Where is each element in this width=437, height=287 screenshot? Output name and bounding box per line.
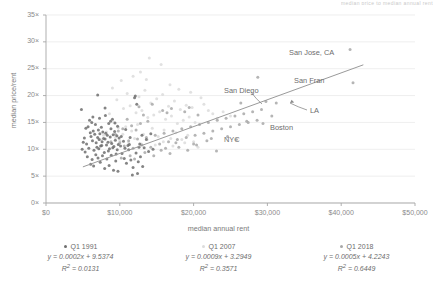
y-tick-label: 20× <box>9 91 39 98</box>
r-squared-number: 0.6449 <box>354 265 375 272</box>
x-tick-label: $30,000 <box>237 209 297 216</box>
legend-equation-0: y = 0.0002x + 9.5374R2 = 0.0131 <box>12 252 150 273</box>
legend-equation-2: y = 0.0005x + 4.2243R2 = 0.6449 <box>288 252 426 273</box>
annotation-nyc: NYC <box>224 135 240 144</box>
x-axis-title: median annual rent <box>0 224 437 233</box>
y-tick-label: 15× <box>9 118 39 125</box>
y-tick-label: 35× <box>9 11 39 18</box>
x-tick-label: $10,000 <box>90 209 150 216</box>
r-squared-value: R2 = 0.6449 <box>288 262 426 274</box>
y-tick-label: 25× <box>9 64 39 71</box>
y-tick-label: 5× <box>9 172 39 179</box>
annotation-san-diego: San Diego <box>224 86 259 95</box>
regression-equation: y = 0.0005x + 4.2243 <box>288 252 426 262</box>
r-squared-value: R2 = 0.3571 <box>150 262 288 274</box>
chart-legend: Q1 1991Q1 2007Q1 2018 y = 0.0002x + 9.53… <box>0 241 437 273</box>
r-squared-number: 0.3571 <box>216 265 237 272</box>
legend-item-0[interactable]: Q1 1991 <box>12 241 150 252</box>
legend-swatch-icon <box>64 245 67 248</box>
regression-equation: y = 0.0002x + 9.5374 <box>12 252 150 262</box>
legend-swatch-icon <box>340 245 343 248</box>
legend-item-1[interactable]: Q1 2007 <box>150 241 288 252</box>
legend-label: Q1 2007 <box>209 243 236 250</box>
regression-equation: y = 0.0009x + 3.2949 <box>150 252 288 262</box>
y-tick-label: 0× <box>9 199 39 206</box>
annotation-san-fran: San Fran <box>294 76 324 85</box>
r-squared-number: 0.0131 <box>78 265 99 272</box>
x-tick-label: $0 <box>16 209 76 216</box>
annotation-san-jose: San Jose, CA <box>289 48 334 57</box>
y-tick-label: 10× <box>9 145 39 152</box>
legend-swatch-icon <box>202 245 205 248</box>
x-tick-label: $20,000 <box>164 209 224 216</box>
legend-equation-1: y = 0.0009x + 3.2949R2 = 0.3571 <box>150 252 288 273</box>
annotation-boston: Boston <box>270 123 293 132</box>
legend-label: Q1 1991 <box>71 243 98 250</box>
x-tick-label: $50,000 <box>385 209 437 216</box>
r-squared-value: R2 = 0.0131 <box>12 262 150 274</box>
legend-item-2[interactable]: Q1 2018 <box>288 241 426 252</box>
annotation-la: LA <box>310 106 319 115</box>
y-axis-title: median price/rent <box>9 61 18 141</box>
scatter-chart: median price to median annual rent media… <box>0 0 437 287</box>
x-tick-label: $40,000 <box>311 209 371 216</box>
series-q1-2007 <box>99 56 232 148</box>
y-tick-label: 30× <box>9 37 39 44</box>
legend-label: Q1 2018 <box>347 243 374 250</box>
